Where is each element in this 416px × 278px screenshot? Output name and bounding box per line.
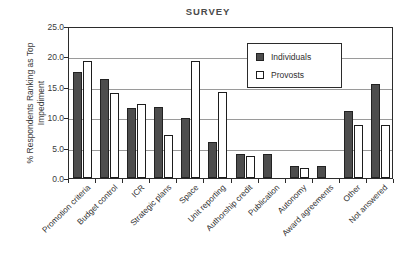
y-axis-tick-label: 25.0 [34,22,64,32]
legend-item-individuals: Individuals [256,50,311,64]
chart-title: SURVEY [0,6,416,17]
legend-label-individuals: Individuals [271,52,311,62]
bar-individuals [371,84,380,178]
x-axis-category-label: ICR [130,183,146,199]
bar-provosts [381,125,390,178]
x-axis-tick-labels: Promotion criteriaBudget controlICRStrat… [0,183,416,278]
x-axis-category-label: Space [177,183,200,206]
x-axis-category-label: Other [342,183,363,204]
bar-group [69,28,394,178]
y-axis-tick-labels: 0.05.010.015.020.025.0 [30,27,64,179]
legend-swatch-individuals-icon [256,53,264,61]
legend-swatch-provosts-icon [256,71,264,79]
y-axis-tick-label: 15.0 [34,83,64,93]
legend-item-provosts: Provosts [256,68,304,82]
legend-label-provosts: Provosts [271,70,304,80]
chart-figure: SURVEY % Respondents Ranking as Top Impe… [0,0,416,278]
plot-area [68,27,393,179]
x-axis-category-label: Promotion criteria [40,183,92,235]
y-axis-tick-label: 5.0 [34,144,64,154]
y-axis-tick-label: 10.0 [34,113,64,123]
chart-legend: Individuals Provosts [247,43,342,88]
y-axis-tick-label: 20.0 [34,52,64,62]
x-axis-category-label: Award agreements [281,183,336,238]
